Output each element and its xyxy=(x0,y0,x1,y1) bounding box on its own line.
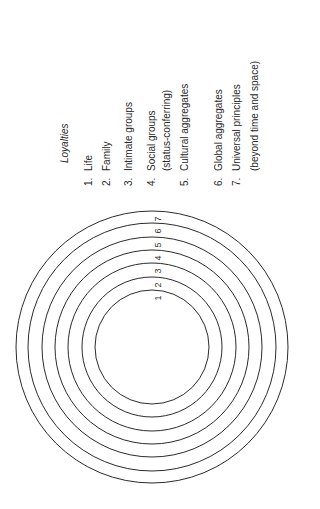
loyalties-concentric-diagram: 1234567 Loyalties 1.Life2.Family3.Intima… xyxy=(0,0,320,509)
legend-item-number: 4. xyxy=(146,178,157,186)
legend-item-number: 3. xyxy=(123,178,134,186)
legend-item-1: 1.Life xyxy=(83,154,94,186)
ring-number-labels: 1234567 xyxy=(153,216,163,300)
legend-heading: Loyalties xyxy=(59,124,70,163)
legend-item-label: Family xyxy=(101,142,112,171)
legend-item-5: 5.Cultural aggregates xyxy=(179,84,190,186)
legend-item-number: 7. xyxy=(231,178,242,186)
legend-item-7: 7.Universal principles(beyond time and s… xyxy=(231,61,260,186)
ring-label-3: 3 xyxy=(153,268,163,273)
ring-label-6: 6 xyxy=(153,228,163,233)
ring-label-7: 7 xyxy=(153,216,163,221)
ring-label-2: 2 xyxy=(153,282,163,287)
ring-label-4: 4 xyxy=(153,255,163,260)
ring-6 xyxy=(28,223,276,471)
legend-item-sublabel: (beyond time and space) xyxy=(249,61,260,171)
legend-item-3: 3.Intimate groups xyxy=(123,102,134,186)
legend-item-label: Global aggregates xyxy=(213,89,224,171)
legend-item-label: Universal principles xyxy=(231,84,242,171)
legend-item-label: Social groups xyxy=(146,110,157,171)
legend-item-number: 2. xyxy=(101,178,112,186)
legend-item-number: 5. xyxy=(179,178,190,186)
legend-item-number: 1. xyxy=(83,178,94,186)
ring-5 xyxy=(42,237,262,457)
legend-item-label: Intimate groups xyxy=(123,102,134,171)
ring-label-1: 1 xyxy=(153,295,163,300)
ring-label-5: 5 xyxy=(153,242,163,247)
legend-item-sublabel: (status-conferring) xyxy=(161,90,172,171)
legend-item-label: Life xyxy=(83,154,94,171)
legend-item-label: Cultural aggregates xyxy=(179,84,190,171)
legend-list: 1.Life2.Family3.Intimate groups4.Social … xyxy=(83,61,260,186)
ring-7 xyxy=(16,211,288,483)
concentric-rings xyxy=(16,211,288,483)
ring-2 xyxy=(82,277,222,417)
legend-item-2: 2.Family xyxy=(101,142,112,186)
ring-1 xyxy=(95,290,209,404)
legend-item-4: 4.Social groups(status-conferring) xyxy=(146,90,172,186)
legend-item-6: 6.Global aggregates xyxy=(213,89,224,186)
ring-3 xyxy=(68,263,236,431)
legend-item-number: 6. xyxy=(213,178,224,186)
ring-4 xyxy=(55,250,249,444)
